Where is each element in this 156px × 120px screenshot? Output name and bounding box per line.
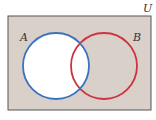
- venn-diagram: U A B: [0, 0, 156, 120]
- set-a-label: A: [19, 31, 28, 44]
- universe-label: U: [143, 2, 153, 15]
- set-b-label: B: [132, 31, 141, 44]
